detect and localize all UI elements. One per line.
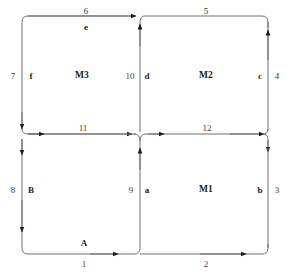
edge-10-d-top-curve — [140, 16, 144, 24]
edge-label-3: 3 — [275, 186, 280, 195]
edge-label-12: 12 — [203, 124, 212, 133]
left-junction-curve — [22, 129, 28, 134]
edge-label-2: 2 — [204, 260, 209, 269]
edge-5-corner-path — [144, 16, 268, 28]
edge-label-6: 6 — [84, 7, 89, 16]
edge-label-4: 4 — [275, 72, 280, 81]
edge-1-A-corner-path — [22, 248, 28, 254]
edge-label-10: 10 — [126, 72, 135, 81]
edge-9-a-bottom-curve — [134, 248, 140, 254]
diagram-canvas: 6 e 5 7 f M3 10 d M2 c 4 11 12 8 B 9 a M… — [0, 0, 290, 272]
edge-label-11: 11 — [79, 124, 88, 133]
edge-label-8: 8 — [11, 186, 16, 195]
edge-label-9: 9 — [129, 186, 134, 195]
edge-label-b: b — [257, 186, 262, 195]
edge-label-e: e — [84, 23, 88, 32]
region-label-M2: M2 — [199, 71, 213, 81]
edge-label-A: A — [81, 239, 88, 248]
diagram-paths — [0, 0, 290, 272]
edge-label-1: 1 — [82, 260, 87, 269]
edge-label-5: 5 — [204, 7, 209, 16]
edge-label-a: a — [145, 186, 150, 195]
center-junction-curve-left — [134, 134, 140, 141]
edge-label-c: c — [258, 72, 262, 81]
edge-2-path — [140, 244, 268, 254]
right-junction-curve-down — [262, 134, 268, 139]
region-label-M3: M3 — [75, 71, 89, 81]
edge-label-d: d — [144, 72, 149, 81]
region-label-M1: M1 — [199, 185, 213, 195]
edge-label-7: 7 — [11, 72, 16, 81]
center-junction-curve-right — [140, 134, 146, 141]
edge-label-B: B — [28, 186, 34, 195]
edge-label-f: f — [30, 72, 33, 81]
right-junction-curve-up — [262, 129, 268, 134]
edge-6-e-corner-path — [22, 16, 134, 22]
